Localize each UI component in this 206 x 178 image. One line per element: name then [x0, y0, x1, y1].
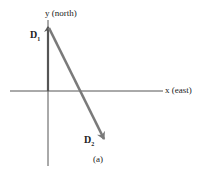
x-axis-label: x (east): [165, 86, 192, 95]
vector-d1-subscript: 1: [37, 36, 40, 42]
vector-d2-subscript: 2: [91, 141, 94, 147]
figure-caption: (a): [93, 155, 103, 164]
vector-d2: [49, 28, 104, 139]
y-axis-label: y (north): [45, 9, 77, 18]
vector-d1-label: D1: [30, 30, 40, 42]
vector-d2-label: D2: [84, 135, 94, 147]
